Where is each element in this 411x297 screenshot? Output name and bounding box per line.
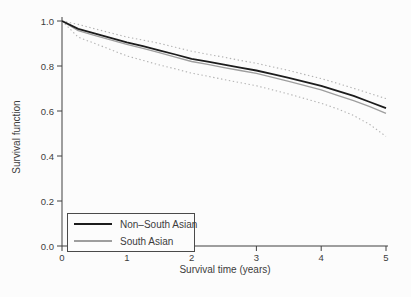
legend: Non–South Asian South Asian [67,213,195,252]
legend-label-non-south-asian: Non–South Asian [120,219,197,230]
legend-item-non-south-asian: Non–South Asian [68,217,194,231]
x-tick-label: 2 [189,252,194,263]
x-tick-label: 5 [383,252,388,263]
survival-chart-figure: 0.00.20.40.60.81.0012345 Survival functi… [0,0,411,297]
south-asian-line-sample [74,240,112,242]
y-axis-title: Survival function [11,100,22,173]
ci-upper-curve [62,21,386,99]
non-south-asian-line-sample [74,223,112,225]
x-tick-label: 1 [124,252,129,263]
y-tick-label: 0.8 [41,61,54,72]
y-tick-label: 0.2 [41,196,54,207]
x-axis-title: Survival time (years) [125,264,325,275]
y-tick-label: 1.0 [41,16,54,27]
survival-plot: 0.00.20.40.60.81.0012345 [0,0,411,297]
legend-item-south-asian: South Asian [68,234,194,248]
south-asian-curve [62,21,386,113]
y-tick-label: 0.0 [41,241,54,252]
y-tick-label: 0.4 [41,151,54,162]
legend-label-south-asian: South Asian [120,236,173,247]
x-tick-label: 0 [59,252,64,263]
x-tick-label: 3 [254,252,259,263]
y-tick-label: 0.6 [41,106,54,117]
x-tick-label: 4 [319,252,324,263]
